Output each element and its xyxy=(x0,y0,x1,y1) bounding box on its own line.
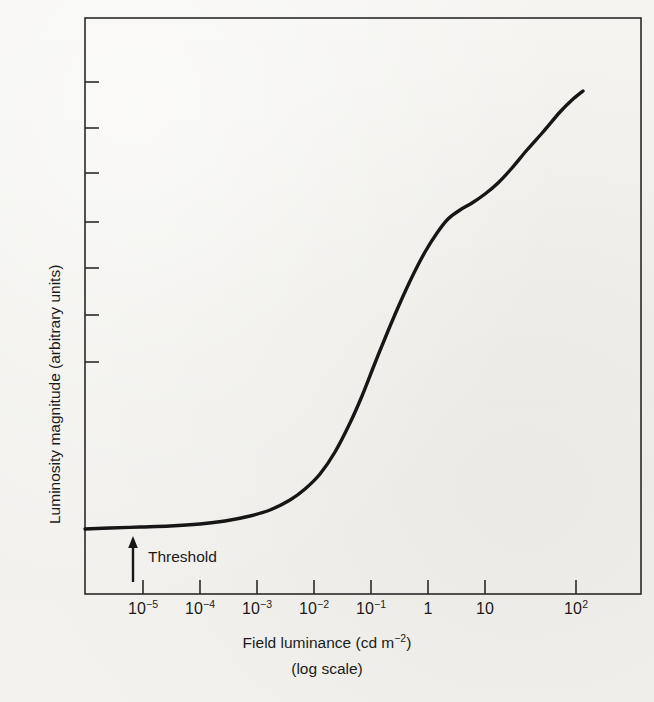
x-axis-title: Field luminance (cd m−2) xyxy=(0,634,654,652)
luminosity-figure: 10−5 10−4 10−3 10−2 10−1 1 10 102 Field … xyxy=(0,0,654,702)
x-axis-subtitle: (log scale) xyxy=(0,660,654,678)
x-tick-label: 10−2 xyxy=(299,600,329,618)
x-tick-label: 1 xyxy=(423,600,432,618)
luminosity-curve xyxy=(85,91,583,529)
y-axis-title: Luminosity magnitude (arbitrary units) xyxy=(46,24,64,524)
x-tick-label: 10−3 xyxy=(242,600,272,618)
y-axis-ticks xyxy=(85,82,99,362)
plot-frame xyxy=(85,18,641,594)
x-tick-label: 10−4 xyxy=(185,600,215,618)
x-tick-label: 10 xyxy=(476,600,494,618)
x-tick-label: 102 xyxy=(564,600,588,618)
threshold-label: Threshold xyxy=(148,548,217,566)
x-tick-label: 10−5 xyxy=(128,600,158,618)
x-tick-label: 10−1 xyxy=(356,600,386,618)
x-axis-ticks xyxy=(143,580,576,594)
threshold-arrow-icon xyxy=(128,536,138,582)
